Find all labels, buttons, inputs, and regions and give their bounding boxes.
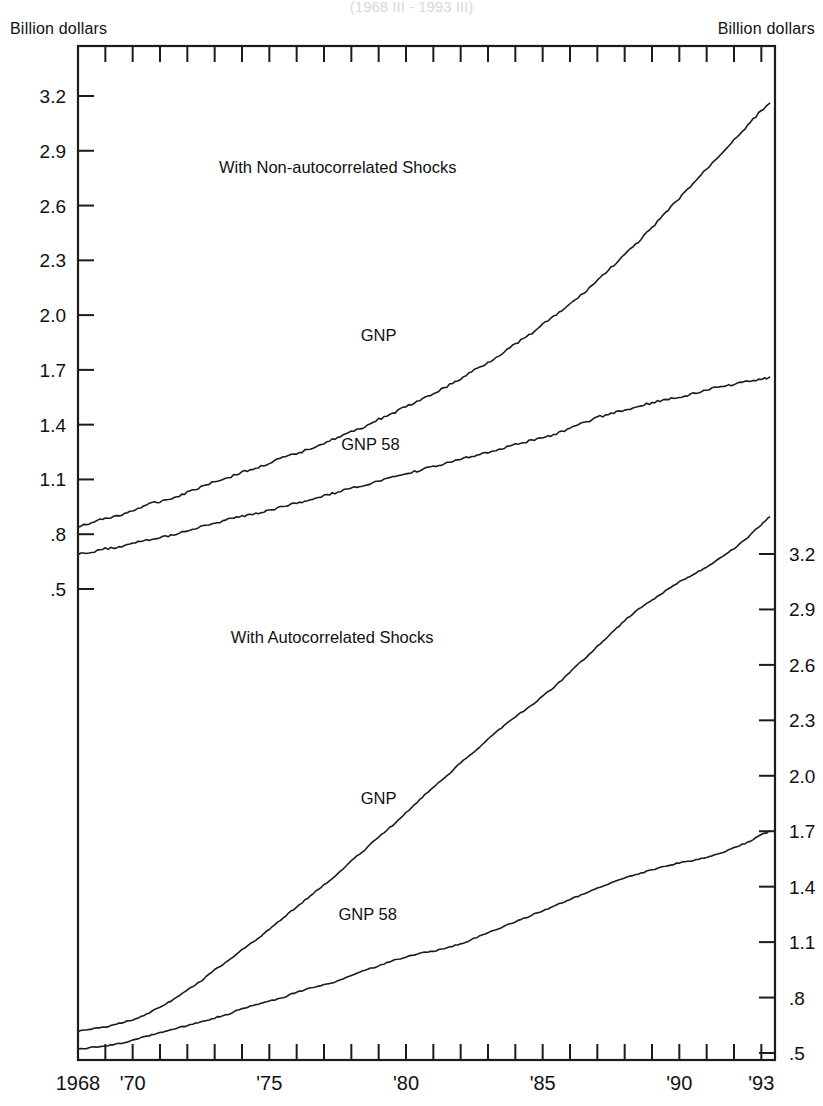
axis-ticks (78, 46, 775, 1060)
right-tick-label-3: 2.3 (789, 710, 815, 731)
series-label-upper-gnp: GNP (361, 326, 397, 344)
right-tick-label-7: 1.1 (789, 932, 815, 953)
left-tick-label-0: 3.2 (40, 86, 66, 107)
series-label-upper-gnp-58: GNP 58 (341, 435, 399, 453)
series-label-lower-gnp: GNP (361, 789, 397, 807)
plot-border (78, 46, 775, 1060)
right-tick-label-5: 1.7 (789, 821, 815, 842)
series-line-lower-gnp (78, 517, 770, 1031)
x-tick-label-1: '70 (120, 1072, 146, 1094)
series-line-upper-gnp-58 (78, 377, 770, 555)
right-tick-label-1: 2.9 (789, 599, 815, 620)
x-tick-label-3: '80 (393, 1072, 419, 1094)
left-tick-label-5: 1.7 (40, 360, 66, 381)
right-tick-label-8: .8 (789, 988, 805, 1009)
chart-annotations: GNPGNP 58With Non-autocorrelated ShocksG… (219, 158, 457, 923)
x-tick-label-4: '85 (530, 1072, 556, 1094)
left-unit-label: Billion dollars (10, 20, 107, 38)
data-curves (78, 103, 770, 1049)
left-tick-label-4: 2.0 (40, 305, 66, 326)
left-tick-label-9: .5 (50, 579, 66, 600)
series-label-lower-gnp-58: GNP 58 (339, 905, 397, 923)
right-tick-label-2: 2.6 (789, 655, 815, 676)
x-tick-label-5: '90 (666, 1072, 692, 1094)
series-line-lower-gnp-58 (78, 831, 770, 1049)
x-tick-label-2: '75 (256, 1072, 282, 1094)
right-tick-label-4: 2.0 (789, 766, 815, 787)
panel-annotation-lower: With Autocorrelated Shocks (231, 628, 434, 646)
left-tick-label-2: 2.6 (40, 196, 66, 217)
left-tick-label-3: 2.3 (40, 250, 66, 271)
right-unit-label: Billion dollars (718, 20, 815, 38)
chart-svg: 1968'70'75'80'85'90'933.22.92.62.32.01.7… (0, 0, 823, 1106)
x-tick-label-0: 1968 (56, 1072, 101, 1094)
panel-annotation-upper: With Non-autocorrelated Shocks (219, 158, 457, 176)
axis-tick-labels: 1968'70'75'80'85'90'933.22.92.62.32.01.7… (40, 86, 816, 1094)
plot-frame (78, 46, 775, 1060)
x-tick-label-6: '93 (748, 1072, 774, 1094)
chart-figure: (1968 III - 1993 III) Billion dollars Bi… (0, 0, 823, 1106)
left-tick-label-7: 1.1 (40, 469, 66, 490)
right-tick-label-0: 3.2 (789, 544, 815, 565)
left-tick-label-6: 1.4 (40, 415, 67, 436)
right-tick-label-9: .5 (789, 1043, 805, 1064)
right-tick-label-6: 1.4 (789, 877, 816, 898)
left-tick-label-8: .8 (50, 524, 66, 545)
figure-title-partial: (1968 III - 1993 III) (0, 0, 823, 15)
left-tick-label-1: 2.9 (40, 141, 66, 162)
